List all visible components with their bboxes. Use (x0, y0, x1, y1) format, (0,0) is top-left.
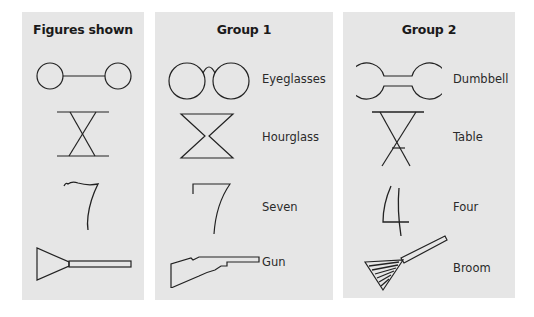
table-icon (370, 110, 426, 168)
item-label: Hourglass (262, 130, 319, 144)
triangle-with-bar-icon (35, 244, 133, 284)
broom-icon (363, 234, 449, 292)
item-label: Dumbbell (453, 72, 508, 86)
item-label: Broom (453, 261, 491, 275)
panel-group-2: Group 2 Dumbbell Table Four Broom (343, 12, 515, 298)
four-icon (377, 182, 413, 238)
item-label: Seven (262, 200, 298, 214)
wavy-seven-shape-icon (60, 180, 106, 232)
crossed-x-between-bars-icon (55, 110, 111, 160)
hourglass-icon (179, 112, 235, 162)
circles-connected-by-line-icon (36, 57, 132, 95)
item-label: Four (453, 200, 478, 214)
panel-heading: Figures shown (22, 22, 144, 37)
panel-group-1: Group 1 Eyeglasses Hourglass Seven Gun (155, 12, 333, 300)
eyeglasses-icon (167, 61, 251, 101)
item-label: Eyeglasses (262, 72, 326, 86)
panel-heading: Group 1 (155, 22, 333, 37)
panel-figures-shown: Figures shown (22, 12, 144, 300)
item-label: Gun (262, 255, 286, 269)
gun-icon (169, 252, 261, 288)
panel-heading: Group 2 (343, 22, 515, 37)
seven-icon (190, 180, 236, 238)
dumbbell-icon (356, 60, 442, 102)
item-label: Table (453, 130, 483, 144)
